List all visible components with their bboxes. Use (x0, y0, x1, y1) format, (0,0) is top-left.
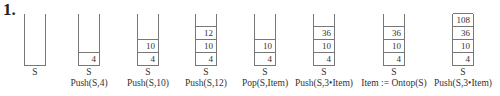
operation-caption: Push(S,3•Item) (284, 78, 364, 89)
stack-2: 4 (78, 14, 100, 66)
stack-cells: 41036 (314, 26, 334, 65)
stack-8: 41036108 (452, 14, 474, 66)
stack-6: 41036 (313, 14, 335, 66)
operation-caption: Item := Ontop(S) (354, 78, 434, 89)
stack-label: SPush(S,3•Item) (284, 67, 364, 89)
stack-cell: 4 (384, 52, 404, 65)
stack-cell: 10 (255, 39, 275, 52)
stack-cell: 12 (196, 26, 216, 39)
stack-cell: 10 (196, 39, 216, 52)
stack-cells: 4 (79, 52, 99, 65)
stack-cell: 10 (138, 39, 158, 52)
stack-cell: 36 (314, 26, 334, 39)
stack-cell: 4 (196, 52, 216, 65)
stack-cell: 4 (453, 52, 473, 65)
stack-cell: 4 (138, 52, 158, 65)
stack-cells: 41012 (196, 26, 216, 65)
stack-label: SPush(S,3•Item) (423, 67, 500, 89)
stack-cell: 36 (384, 26, 404, 39)
stack-cell: 108 (453, 13, 473, 26)
operation-caption: Push(S,3•Item) (423, 78, 500, 89)
stack-3: 410 (137, 14, 159, 66)
stack-name: S (423, 67, 500, 78)
stack-cell: 4 (79, 52, 99, 65)
stack-7: 41036 (383, 14, 405, 66)
stack-cells: 41036 (384, 26, 404, 65)
stack-cells: 410 (138, 39, 158, 65)
stack-cell: 36 (453, 26, 473, 39)
stack-4: 41012 (195, 14, 217, 66)
stack-cell: 4 (255, 52, 275, 65)
stack-cell: 10 (384, 39, 404, 52)
stack-label: SItem := Ontop(S) (354, 67, 434, 89)
stack-cells: 41036108 (453, 13, 473, 65)
stack-1 (24, 14, 46, 66)
problem-number: 1. (3, 0, 16, 20)
stack-cells: 410 (255, 39, 275, 65)
stack-cell: 10 (314, 39, 334, 52)
stack-cell: 4 (314, 52, 334, 65)
stack-name: S (284, 67, 364, 78)
stack-cell: 10 (453, 39, 473, 52)
stack-5: 410 (254, 14, 276, 66)
stack-name: S (354, 67, 434, 78)
